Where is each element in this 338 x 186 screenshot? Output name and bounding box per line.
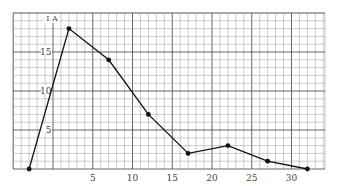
data-point xyxy=(146,112,151,117)
line-chart: 5101520253051015I A xyxy=(0,0,338,186)
data-point xyxy=(226,143,231,148)
x-tick-label: 5 xyxy=(90,173,96,183)
data-point xyxy=(186,151,191,156)
x-tick-label: 10 xyxy=(127,173,139,183)
x-tick-label: 20 xyxy=(206,173,218,183)
x-tick-label: 30 xyxy=(286,173,298,183)
grid xyxy=(13,13,325,169)
x-tick-label: 15 xyxy=(167,173,179,183)
y-tick-label: 15 xyxy=(40,47,52,57)
x-tick-label: 25 xyxy=(246,173,258,183)
data-point xyxy=(305,167,310,172)
data-point xyxy=(265,159,270,164)
y-axis-label: I A xyxy=(46,14,58,23)
data-point xyxy=(67,26,72,31)
data-point xyxy=(27,167,32,172)
y-tick-label: 5 xyxy=(46,125,52,135)
data-point xyxy=(106,57,111,62)
